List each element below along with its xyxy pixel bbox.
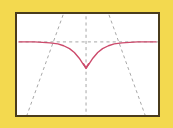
plot-frame <box>15 12 160 117</box>
diagonal-asymptote-right-line <box>101 14 154 115</box>
curve-group <box>19 42 156 68</box>
plot-canvas <box>17 14 158 115</box>
figure-stage <box>0 0 173 128</box>
cusped-cosine-curve <box>19 42 156 68</box>
diagonal-asymptote-left-line <box>19 14 72 115</box>
